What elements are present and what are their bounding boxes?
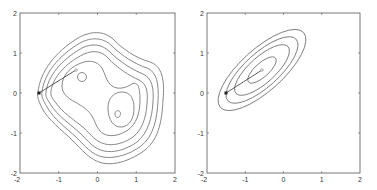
right-y-tick-labels: 2 1 0 -1 -2 <box>198 10 204 177</box>
y-tick-label: 1 <box>200 50 204 57</box>
left-start-point <box>38 92 41 95</box>
x-tick-label: 0 <box>96 176 100 183</box>
right-contour-plot: -2 -1 0 1 2 2 1 0 -1 -2 <box>198 10 362 184</box>
left-contour-plot: -2 -1 0 1 2 2 1 0 -1 -2 <box>11 10 177 184</box>
y-tick-label: -1 <box>11 130 17 137</box>
right-plot-frame <box>207 13 360 173</box>
x-tick-label: 1 <box>134 176 138 183</box>
y-tick-label: 0 <box>200 90 204 97</box>
x-tick-label: 2 <box>173 176 177 183</box>
right-x-tick-labels: -2 -1 0 1 2 <box>201 176 362 183</box>
x-tick-label: 0 <box>282 176 286 183</box>
x-tick-label: -1 <box>242 176 248 183</box>
y-tick-label: 1 <box>13 50 17 57</box>
left-y-tick-labels: 2 1 0 -1 -2 <box>11 10 17 177</box>
x-tick-label: 2 <box>358 176 362 183</box>
x-tick-label: 1 <box>320 176 324 183</box>
y-tick-label: -2 <box>11 170 17 177</box>
x-tick-label: -1 <box>56 176 62 183</box>
y-tick-label: -2 <box>198 170 204 177</box>
y-tick-label: -1 <box>198 130 204 137</box>
right-end-point <box>261 69 264 72</box>
x-tick-label: -2 <box>201 176 207 183</box>
x-tick-label: -2 <box>14 176 20 183</box>
left-x-tick-labels: -2 -1 0 1 2 <box>14 176 177 183</box>
y-tick-label: 2 <box>200 10 204 17</box>
left-end-point <box>75 69 78 72</box>
right-start-point <box>225 92 228 95</box>
y-tick-label: 0 <box>13 90 17 97</box>
y-tick-label: 2 <box>13 10 17 17</box>
figure: -2 -1 0 1 2 2 1 0 -1 -2 <box>0 0 377 190</box>
